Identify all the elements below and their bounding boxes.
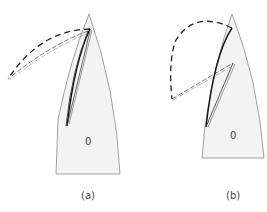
center-label-a: 0 xyxy=(85,136,91,147)
center-label-b: 0 xyxy=(230,130,236,141)
diagram-canvas xyxy=(0,0,267,212)
panel-a xyxy=(8,14,120,174)
caption-b: (b) xyxy=(226,190,240,201)
panel-b xyxy=(171,14,264,158)
caption-a: (a) xyxy=(81,190,95,201)
